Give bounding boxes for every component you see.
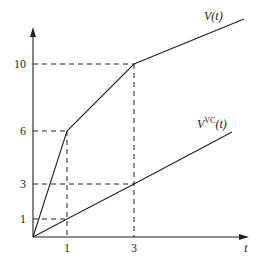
y-axis-arrow-icon (30, 27, 36, 37)
y-tick-10: 10 (14, 57, 26, 71)
series-vvc-label-arg: (t) (215, 117, 226, 131)
x-axis-arrow-icon (239, 234, 249, 240)
reference-lines (33, 64, 134, 237)
line-chart: 10 6 3 1 1 3 t V(t) VVC(t) (0, 0, 267, 257)
series-vvc-label: VVC(t) (197, 116, 227, 131)
y-tick-1: 1 (20, 212, 26, 226)
series-v-label-arg: (t) (211, 9, 222, 23)
y-tick-6: 6 (20, 124, 26, 138)
y-tick-3: 3 (20, 177, 26, 191)
series-v (33, 19, 244, 237)
x-tick-1: 1 (64, 241, 70, 255)
series-v-label: V(t) (204, 9, 223, 23)
x-axis-label: t (244, 241, 248, 255)
x-tick-3: 3 (131, 241, 137, 255)
series-vvc-label-sup: VC (204, 116, 215, 125)
